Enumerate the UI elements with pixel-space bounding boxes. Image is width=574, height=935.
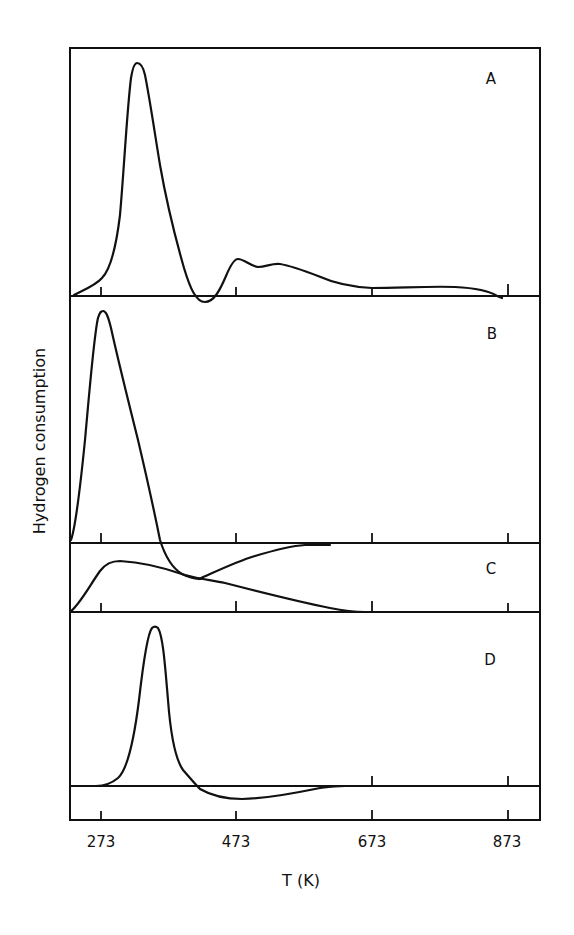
tpr-figure: A B C	[0, 0, 574, 935]
panel-b-label: B	[487, 325, 497, 343]
panel-a-label: A	[486, 70, 497, 88]
x-axis: 273 473 673 873 T (K)	[87, 833, 522, 890]
x-axis-title: T (K)	[281, 871, 320, 890]
chart-svg: A B C	[0, 0, 574, 935]
x-tick-label-873: 873	[493, 833, 522, 851]
panel-b-curve	[71, 311, 201, 579]
panel-c-label: C	[486, 560, 496, 578]
y-axis-title: Hydrogen consumption	[30, 348, 49, 535]
panel-a: A	[70, 63, 540, 302]
panel-b: B	[70, 311, 540, 579]
panel-d-label: D	[484, 651, 496, 669]
panel-d: D	[70, 627, 540, 821]
panel-d-curve	[96, 627, 345, 800]
panel-c: C	[70, 545, 540, 612]
x-tick-label-273: 273	[87, 833, 116, 851]
x-tick-label-473: 473	[222, 833, 251, 851]
x-tick-label-673: 673	[358, 833, 387, 851]
panel-c-lower-curve	[71, 561, 365, 612]
panel-c-upper-curve	[199, 545, 330, 579]
plot-frame	[70, 48, 540, 820]
panel-a-curve	[74, 63, 502, 302]
